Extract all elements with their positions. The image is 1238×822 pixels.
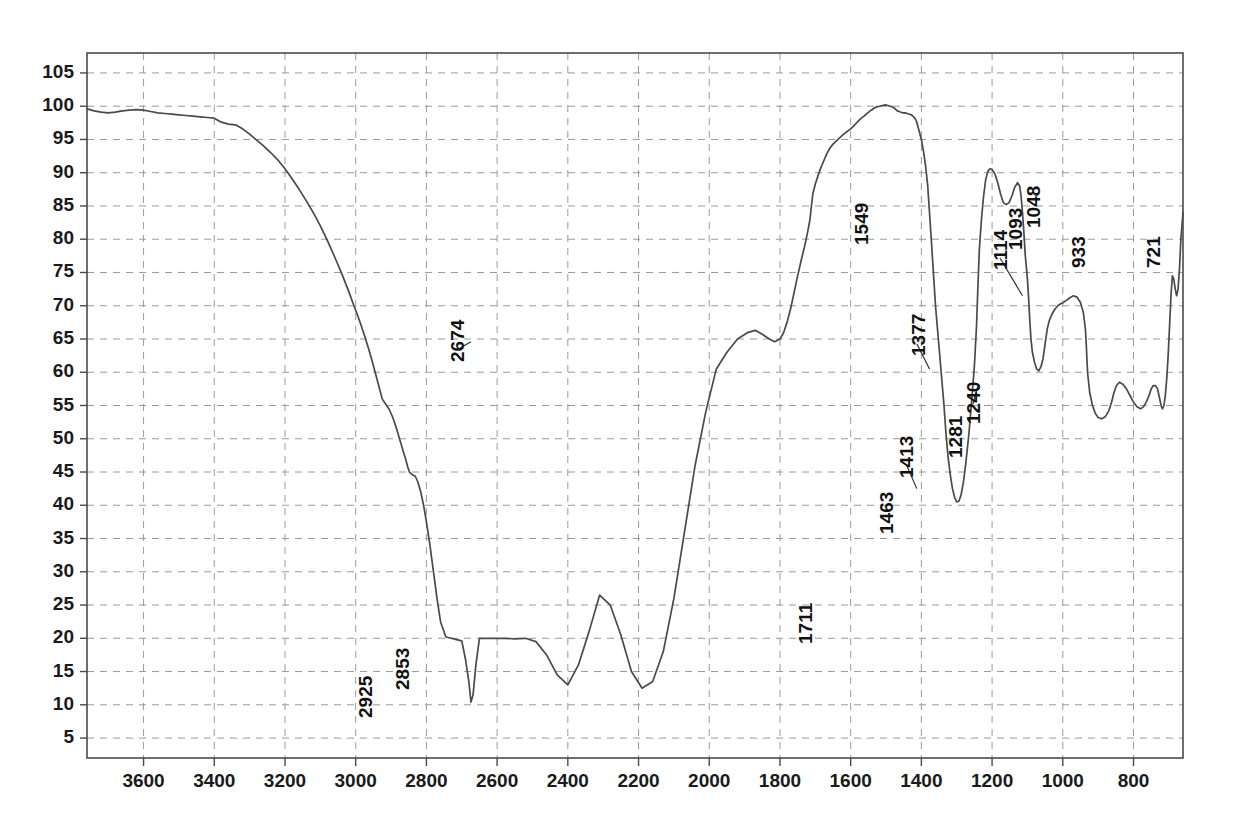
chart-background: [0, 0, 1238, 822]
x-tick-label: 1800: [759, 770, 801, 791]
x-tick-label: 2800: [405, 770, 447, 791]
y-tick-label: 45: [53, 460, 75, 481]
y-tick-label: 90: [53, 161, 74, 182]
x-tick-label: 1600: [830, 770, 872, 791]
y-tick-label: 20: [53, 626, 74, 647]
peak-label: 721: [1143, 236, 1164, 268]
x-tick-label: 2000: [688, 770, 730, 791]
y-tick-label: 65: [53, 327, 75, 348]
x-tick-label: 2400: [547, 770, 589, 791]
x-tick-label: 1200: [971, 770, 1013, 791]
x-tick-label: 1000: [1042, 770, 1084, 791]
y-tick-label: 50: [53, 427, 74, 448]
y-tick-label: 100: [42, 94, 74, 115]
peak-label: 1549: [851, 203, 872, 245]
y-tick-label: 40: [53, 493, 74, 514]
peak-label: 1048: [1023, 186, 1044, 228]
x-tick-label: 800: [1118, 770, 1150, 791]
x-tick-label: 3400: [193, 770, 235, 791]
peak-label: 2674: [447, 319, 468, 362]
y-tick-label: 15: [53, 660, 75, 681]
y-tick-label: 85: [53, 194, 75, 215]
x-tick-label: 3600: [122, 770, 164, 791]
peak-label: 1240: [963, 382, 984, 424]
y-tick-label: 75: [53, 260, 75, 281]
x-tick-label: 3200: [264, 770, 306, 791]
peak-label: 1711: [795, 602, 816, 644]
y-tick-label: 55: [53, 394, 75, 415]
x-tick-label: 2200: [617, 770, 659, 791]
y-tick-label: 30: [53, 560, 74, 581]
peak-label: 1377: [908, 314, 929, 356]
x-tick-label: 2600: [476, 770, 518, 791]
y-tick-label: 5: [63, 726, 74, 747]
y-tick-label: 70: [53, 294, 74, 315]
ir-spectrum-page: 5101520253035404550556065707580859095100…: [0, 0, 1238, 822]
y-tick-label: 80: [53, 227, 74, 248]
peak-label: 1463: [876, 492, 897, 534]
y-tick-label: 35: [53, 527, 75, 548]
peak-label: 933: [1068, 236, 1089, 268]
y-tick-label: 60: [53, 360, 74, 381]
y-tick-label: 95: [53, 127, 75, 148]
x-tick-label: 3000: [335, 770, 377, 791]
y-tick-label: 10: [53, 693, 74, 714]
ir-spectrum-chart: 5101520253035404550556065707580859095100…: [0, 0, 1238, 822]
peak-label: 2853: [392, 648, 413, 690]
y-tick-label: 25: [53, 593, 75, 614]
peak-label: 1413: [896, 436, 917, 478]
peak-label: 2925: [355, 675, 376, 718]
x-tick-label: 1400: [900, 770, 942, 791]
y-tick-label: 105: [42, 61, 74, 82]
